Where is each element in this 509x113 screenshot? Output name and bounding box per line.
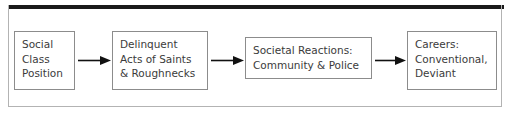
flowchart-node-social-class-position: Social Class Position: [14, 31, 75, 90]
node-text-line: Delinquent: [120, 37, 207, 52]
flowchart-node-societal-reactions: Societal Reactions: Community & Police: [245, 37, 372, 79]
node-text-line: Conventional,: [415, 52, 496, 67]
node-text-line: Deviant: [415, 66, 496, 81]
arrow-right-icon-delinquent-to-reactions: [211, 55, 244, 66]
flowchart-node-delinquent-acts: Delinquent Acts of Saints & Roughnecks: [112, 31, 208, 90]
arrow-right-icon-social-to-delinquent: [78, 55, 111, 66]
flowchart-figure: Social Class Position Delinquent Acts of…: [0, 0, 509, 113]
flowchart-node-careers: Careers: Conventional, Deviant: [407, 31, 497, 90]
node-text-line: Class: [22, 52, 74, 67]
node-text-line: Social: [22, 37, 74, 52]
node-text-line: & Roughnecks: [120, 66, 207, 81]
node-text-line: Position: [22, 66, 74, 81]
node-text-line: Acts of Saints: [120, 52, 207, 67]
arrow-right-icon-reactions-to-careers: [375, 55, 406, 66]
node-text-line: Community & Police: [253, 58, 371, 73]
node-text-line: Careers:: [415, 37, 496, 52]
node-text-line: Societal Reactions:: [253, 43, 371, 58]
